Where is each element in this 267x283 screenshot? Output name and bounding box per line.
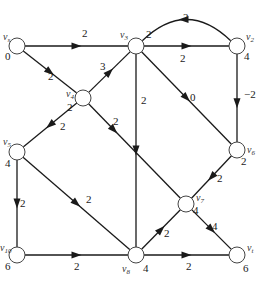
- node-name-label: v5: [3, 136, 11, 149]
- edge-weight-label: 2: [186, 260, 192, 272]
- node-value-label: 6: [5, 260, 11, 272]
- edge-weight-label: 2: [82, 27, 88, 39]
- node-name-label: vs: [3, 31, 10, 44]
- edge-v4-v7: [89, 104, 181, 199]
- arrowhead-icon: [182, 43, 192, 50]
- node-vs: [9, 38, 25, 54]
- edge-v8-vt: [144, 252, 229, 259]
- node-value-label: 2: [67, 101, 73, 113]
- edge-weight-label: 3: [100, 60, 106, 72]
- edge-vs-v3: [25, 43, 128, 50]
- edge-weight-label: 2: [180, 52, 186, 64]
- node-value-label: 4: [5, 157, 11, 169]
- node-vt: [229, 247, 245, 263]
- node-value-label: 2: [241, 155, 247, 167]
- node-value-label: 2: [146, 28, 152, 40]
- edge-weight-label: 2: [60, 120, 66, 132]
- edge-weight-label: −2: [244, 88, 256, 100]
- node-v8: [128, 247, 144, 263]
- node-value-label: 4: [244, 50, 250, 62]
- edge-weight-label: 2: [164, 227, 170, 239]
- edge-weight-label: 2: [86, 193, 92, 205]
- node-name-label: v6: [247, 144, 255, 157]
- edge-weight-label: 2: [74, 260, 80, 272]
- edge-weight-label: 2: [183, 11, 189, 23]
- node-v2: [229, 38, 245, 54]
- edge-weight-label: 4: [212, 220, 218, 232]
- node-v5: [9, 144, 25, 160]
- edges-layer: [14, 16, 241, 259]
- edge-weight-label: 0: [190, 91, 196, 103]
- node-name-label: v10: [0, 242, 12, 255]
- edge-v10-v8: [25, 252, 128, 259]
- node-name-label: v3: [120, 29, 128, 42]
- node-v7: [178, 196, 194, 212]
- arrowhead-icon: [72, 252, 82, 259]
- arrowhead-icon: [234, 98, 241, 108]
- node-value-label: 4: [143, 262, 149, 274]
- edge-v3-v2: [144, 43, 229, 50]
- edge-weight-label: 2: [141, 94, 147, 106]
- node-value-label: 6: [243, 262, 249, 274]
- edge-weight-label: 2: [217, 172, 223, 184]
- arrowhead-icon: [182, 252, 192, 259]
- edge-v3-v6: [142, 52, 232, 145]
- graph-diagram: 2232220−2222222242vs0v32v24v42v54v62v74v…: [0, 0, 267, 283]
- edge-v2-v6: [234, 54, 241, 142]
- edge-v8-v7: [142, 210, 181, 250]
- arrowhead-icon: [72, 43, 82, 50]
- edge-v5-v8: [23, 157, 130, 250]
- node-v3: [128, 38, 144, 54]
- node-name-label: v2: [246, 31, 254, 44]
- node-name-label: v8: [122, 263, 130, 276]
- edge-v4-v3: [89, 52, 131, 93]
- node-v4: [75, 90, 91, 106]
- edge-weight-label: 2: [20, 197, 26, 209]
- edge-weight-label: 2: [48, 70, 54, 82]
- edge-weight-label: 2: [113, 115, 119, 127]
- node-name-label: vt: [247, 242, 254, 255]
- node-value-label: 0: [5, 50, 11, 62]
- node-value-label: 4: [193, 204, 199, 216]
